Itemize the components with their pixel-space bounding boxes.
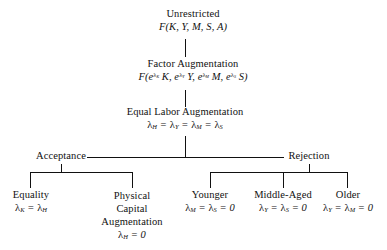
node-equality: Equality λK = λH [2, 189, 60, 215]
node-middle-aged-formula: λY = λS = 0 [245, 202, 321, 215]
connector-factor-augmentation-to-equal-labor [185, 90, 186, 107]
connector-acceptance-bracket [30, 172, 133, 173]
connector-acceptance-to-equality [30, 172, 31, 188]
node-equality-formula: λK = λH [2, 202, 60, 215]
production-function-tree-diagram: Unrestricted F(K, Y, M, S, A) Factor Aug… [0, 0, 387, 250]
connector-rejection-bracket [210, 172, 348, 173]
node-acceptance-label: Acceptance [32, 150, 90, 163]
node-factor-augmentation-formula: F(eλK K, eλY Y, eλM M, eλS S) [103, 71, 283, 84]
node-factor-augmentation: Factor Augmentation F(eλK K, eλY Y, eλM … [103, 58, 283, 84]
node-older-formula: λY = λM = 0 [313, 202, 383, 215]
connector-rejection-to-middle-aged [283, 172, 284, 188]
connector-acceptance-stem [61, 164, 62, 172]
connector-acceptance-rejection-bar [87, 157, 284, 158]
node-older: Older λY = λM = 0 [313, 189, 383, 215]
node-younger-label: Younger [176, 189, 244, 202]
node-equal-labor-augmentation-formula: λH = λY = λM = λS [95, 119, 275, 132]
connector-rejection-to-older [347, 172, 348, 188]
node-younger-formula: λM = λS = 0 [176, 202, 244, 215]
connector-rejection-to-younger [210, 172, 211, 188]
node-equal-labor-augmentation-label: Equal Labor Augmentation [95, 106, 275, 119]
node-older-label: Older [313, 189, 383, 202]
node-equal-labor-augmentation: Equal Labor Augmentation λH = λY = λM = … [95, 106, 275, 132]
node-physical-capital-augmentation-formula: λH = 0 [98, 228, 166, 242]
node-unrestricted-formula: F(K, Y, M, S, A) [113, 21, 273, 34]
connector-unrestricted-to-factor-augmentation [185, 39, 186, 57]
node-rejection: Rejection [281, 150, 337, 163]
node-physical-capital-augmentation: Physical Capital Augmentation λH = 0 [98, 189, 166, 242]
connector-equal-labor-to-split [185, 136, 186, 157]
node-middle-aged: Middle-Aged λY = λS = 0 [245, 189, 321, 215]
node-rejection-label: Rejection [281, 150, 337, 163]
node-unrestricted: Unrestricted F(K, Y, M, S, A) [113, 8, 273, 34]
connector-rejection-stem [309, 164, 310, 172]
node-middle-aged-label: Middle-Aged [245, 189, 321, 202]
node-factor-augmentation-label: Factor Augmentation [103, 58, 283, 71]
node-equality-label: Equality [2, 189, 60, 202]
node-unrestricted-label: Unrestricted [113, 8, 273, 21]
connector-acceptance-to-physical-capital [132, 172, 133, 188]
node-younger: Younger λM = λS = 0 [176, 189, 244, 215]
node-acceptance: Acceptance [32, 150, 90, 163]
node-physical-capital-augmentation-label: Physical Capital Augmentation [98, 189, 166, 228]
